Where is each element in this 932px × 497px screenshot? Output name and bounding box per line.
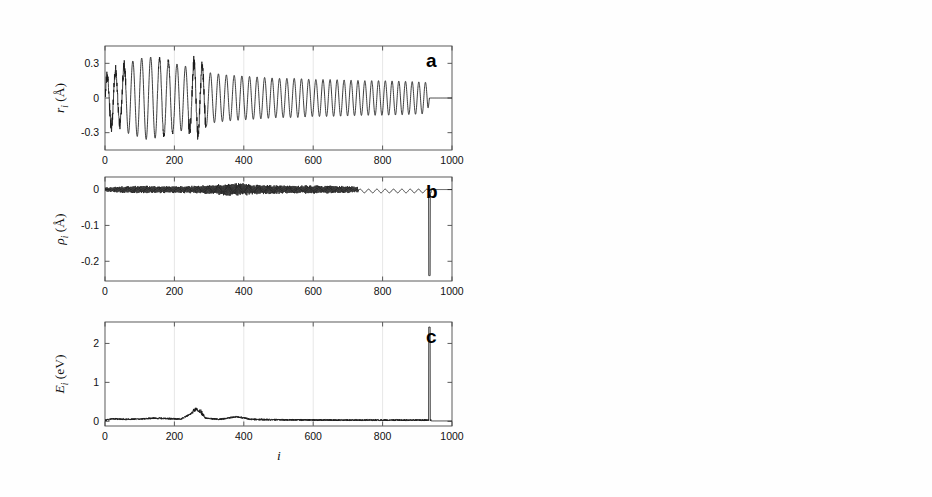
xtick-label: 800 — [374, 430, 392, 442]
figure-root: 02004006008001000-0.300.3ari (Å)02004006… — [0, 0, 932, 497]
plot-left-c: 02004006008001000012cEi (eV) — [0, 0, 492, 472]
xtick-label: 400 — [235, 430, 253, 442]
xtick-label: 600 — [304, 430, 322, 442]
svg-text:Ei (eV): Ei (eV) — [52, 355, 70, 395]
ytick-label: 2 — [93, 337, 99, 349]
xtick-label: 200 — [166, 430, 184, 442]
ytick-label: 0 — [93, 415, 99, 427]
svg-text:i: i — [277, 448, 281, 463]
xtick-label: 1000 — [440, 430, 464, 442]
xtick-label: 0 — [102, 430, 108, 442]
ytick-label: 1 — [93, 376, 99, 388]
ylabel-left-c: Ei (eV) — [52, 355, 70, 395]
left-figure-group: 02004006008001000-0.300.3ari (Å)02004006… — [0, 0, 466, 497]
xaxis-title: i — [259, 444, 299, 470]
axis-frame-left-c — [105, 322, 452, 426]
panel-letter-c: c — [426, 326, 437, 347]
